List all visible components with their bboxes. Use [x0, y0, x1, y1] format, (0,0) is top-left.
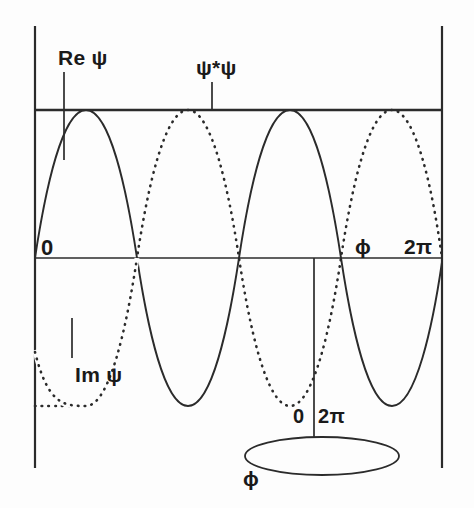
label-re-psi: Re ψ	[58, 47, 108, 68]
figure-canvas: Re ψ ψ*ψ 0 ϕ 2π Im ψ 0 2π ϕ	[0, 0, 474, 508]
label-ring-zero: 0	[293, 406, 304, 426]
label-ring-two-pi: 2π	[318, 406, 345, 426]
label-im-psi: Im ψ	[75, 364, 122, 385]
label-two-pi: 2π	[404, 236, 432, 257]
label-psi-star-psi: ψ*ψ	[196, 57, 237, 78]
wavefunction-diagram	[0, 0, 474, 508]
label-ring-phi: ϕ	[243, 468, 259, 489]
label-psi-star-psi-text: ψ*ψ	[196, 56, 237, 79]
label-origin: 0	[41, 237, 54, 259]
label-phi-axis: ϕ	[355, 236, 371, 257]
phase-ring-ellipse	[245, 437, 399, 475]
